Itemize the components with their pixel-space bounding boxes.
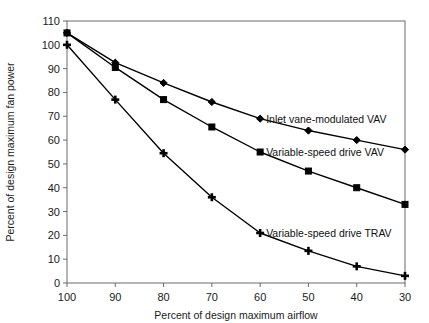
- y-tick-label: 20: [48, 229, 60, 241]
- x-tick-label: 80: [157, 291, 169, 303]
- x-tick-label: 90: [109, 291, 121, 303]
- y-tick-label: 30: [48, 206, 60, 218]
- y-axis-title: Percent of design maximum fan power: [4, 62, 16, 242]
- data-point-square: [402, 201, 408, 207]
- x-tick-label: 30: [399, 291, 411, 303]
- y-tick-label: 110: [42, 15, 60, 27]
- chart-background: [0, 0, 429, 323]
- y-tick-label: 100: [42, 39, 60, 51]
- data-point-square: [305, 168, 311, 174]
- y-tick-label: 80: [48, 86, 60, 98]
- data-point-plus: [259, 229, 262, 237]
- data-point-plus: [211, 193, 214, 201]
- y-tick-label: 90: [48, 63, 60, 75]
- data-point-square: [161, 97, 167, 103]
- data-point-plus: [307, 247, 310, 255]
- y-tick-label: 50: [48, 158, 60, 170]
- data-point-plus: [162, 149, 165, 157]
- x-tick-label: 50: [302, 291, 314, 303]
- y-tick-label: 70: [48, 110, 60, 122]
- data-point-plus: [355, 262, 358, 270]
- y-tick-label: 10: [48, 253, 60, 265]
- series-label-2: Variable-speed drive TRAV: [266, 227, 391, 239]
- x-tick-label: 60: [254, 291, 266, 303]
- data-point-square: [209, 124, 215, 130]
- data-point-plus: [114, 96, 117, 104]
- y-tick-label: 60: [48, 134, 60, 146]
- data-point-plus: [66, 41, 69, 49]
- x-tick-label: 40: [351, 291, 363, 303]
- data-point-plus: [404, 272, 407, 280]
- data-point-square: [64, 30, 70, 36]
- data-point-square: [257, 149, 263, 155]
- x-axis-title: Percent of design maximum airflow: [154, 309, 318, 321]
- series-label-0: Inlet vane-modulated VAV: [266, 113, 386, 125]
- x-tick-label: 70: [206, 291, 218, 303]
- data-point-square: [112, 64, 118, 70]
- x-tick-label: 100: [58, 291, 76, 303]
- series-label-1: Variable-speed drive VAV: [266, 146, 384, 158]
- y-tick-label: 40: [48, 182, 60, 194]
- fan-power-vs-airflow-chart: 0102030405060708090100110100908070605040…: [0, 0, 429, 323]
- chart-container: 0102030405060708090100110100908070605040…: [0, 0, 429, 323]
- y-tick-label: 0: [54, 277, 60, 289]
- data-point-square: [354, 185, 360, 191]
